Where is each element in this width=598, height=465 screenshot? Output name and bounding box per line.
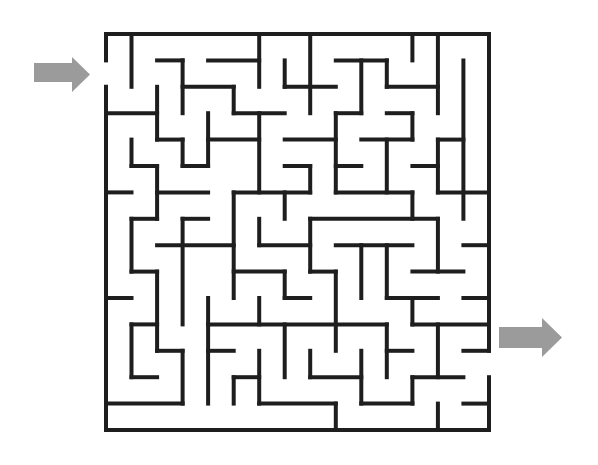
maze-board: Start Finish: [0, 0, 598, 465]
exit-arrow-icon: Finish: [499, 318, 562, 357]
entrance-arrow-icon: Start: [34, 57, 90, 92]
maze-walls: [106, 34, 489, 430]
